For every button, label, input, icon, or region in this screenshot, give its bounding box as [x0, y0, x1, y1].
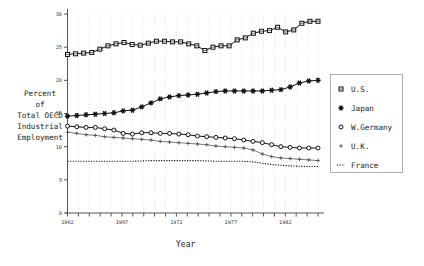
y-axis-label-line-2: of — [4, 99, 76, 110]
x-tick-label: 1967 — [116, 219, 129, 225]
y-axis-label-line-3: Total OECD — [4, 110, 76, 121]
legend-label: U.S. — [351, 85, 369, 94]
legend-label: U.K. — [351, 142, 369, 151]
legend: U.S.JapanW.GermanyU.K.France — [330, 74, 418, 174]
x-axis-label: Year — [176, 240, 195, 249]
x-tick-label: 1977 — [225, 219, 238, 225]
y-tick-label: 5 — [59, 177, 62, 183]
legend-label: Japan — [351, 104, 374, 113]
x-tick-label: 1962 — [61, 219, 74, 225]
y-axis-label-line-1: Percent — [4, 88, 76, 99]
x-tick-label: 1982 — [279, 219, 292, 225]
series-japan — [65, 78, 321, 118]
y-tick-label: 0 — [59, 210, 62, 216]
legend-svg: U.S.JapanW.GermanyU.K.France — [330, 74, 418, 174]
y-tick-label: 10 — [56, 144, 62, 150]
y-axis-label: Percent of Total OECD Industrial Employm… — [4, 88, 76, 143]
chart-root: 05101520253019621967197219771982 Percent… — [0, 0, 424, 266]
legend-label: France — [351, 161, 379, 170]
y-axis-label-line-5: Employment — [4, 132, 76, 143]
y-tick-label: 20 — [56, 77, 62, 83]
y-axis-label-line-4: Industrial — [4, 121, 76, 132]
y-tick-label: 25 — [56, 44, 62, 50]
x-tick-label: 1972 — [170, 219, 183, 225]
series-u-s — [66, 19, 321, 56]
legend-label: W.Germany — [351, 123, 393, 132]
y-tick-label: 30 — [56, 11, 62, 17]
series-france — [68, 161, 319, 167]
